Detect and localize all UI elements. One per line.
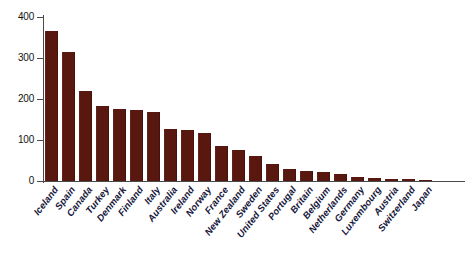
bar-slot [368, 17, 381, 181]
category-slot: Switzerland [402, 184, 415, 254]
x-axis-category-labels: IcelandSpainCanadaTurkeyDenmarkFinlandIt… [45, 184, 465, 254]
category-slot: New Zealand [232, 184, 245, 254]
bar-slot [79, 17, 92, 181]
bar-slot [249, 17, 262, 181]
bar-slot [385, 17, 398, 181]
category-slot: Japan [419, 184, 432, 254]
bar-slot [45, 17, 58, 181]
bar-slot [283, 17, 296, 181]
bar [419, 180, 432, 181]
bar-slot [96, 17, 109, 181]
bar-slot [419, 17, 432, 181]
bar-slot [181, 17, 194, 181]
bar-slot [62, 17, 75, 181]
bar-slot [215, 17, 228, 181]
bar [368, 178, 381, 181]
category-slot: Denmark [113, 184, 126, 254]
bar-slot [130, 17, 143, 181]
bar [45, 31, 58, 181]
bar [215, 146, 228, 181]
bar-slot [113, 17, 126, 181]
y-tick-label: 400 [4, 12, 34, 22]
bar [351, 177, 364, 181]
category-slot: Canada [79, 184, 92, 254]
category-slot: Portugal [283, 184, 296, 254]
category-slot: Australia [164, 184, 177, 254]
bar-slot [232, 17, 245, 181]
bar [249, 156, 262, 181]
bar-slot [317, 17, 330, 181]
category-slot: Ireland [181, 184, 194, 254]
bar [334, 174, 347, 181]
y-tick-label: 100 [4, 135, 34, 145]
bar [300, 171, 313, 181]
bar-slot [300, 17, 313, 181]
x-axis-line [43, 181, 465, 182]
y-tick-mark [37, 99, 44, 100]
bar-slot [351, 17, 364, 181]
caption-strip [0, 252, 475, 260]
bar [113, 109, 126, 181]
bar-slot [266, 17, 279, 181]
bar [62, 52, 75, 181]
category-slot: Spain [62, 184, 75, 254]
y-tick-label: 300 [4, 53, 34, 63]
y-tick-mark [37, 58, 44, 59]
bar-slot [402, 17, 415, 181]
bar [147, 112, 160, 181]
y-tick-mark [37, 140, 44, 141]
bar-slot [147, 17, 160, 181]
bar-slot [164, 17, 177, 181]
category-slot: Finland [130, 184, 143, 254]
bar [164, 129, 177, 181]
bar [266, 164, 279, 181]
bar [283, 169, 296, 181]
bar [96, 106, 109, 181]
bar [181, 130, 194, 181]
bar [79, 91, 92, 181]
bar [198, 133, 211, 181]
category-slot: Luxembourg [368, 184, 381, 254]
bar-slot [198, 17, 211, 181]
bar [130, 110, 143, 181]
bar-series [45, 17, 465, 181]
y-tick-mark [37, 181, 44, 182]
y-tick-label: 200 [4, 94, 34, 104]
category-slot: Iceland [45, 184, 58, 254]
bar [317, 172, 330, 181]
y-tick-label: 0 [4, 176, 34, 186]
bar-chart: 0100200300400 IcelandSpainCanadaTurkeyDe… [0, 0, 475, 260]
category-slot: Norway [198, 184, 211, 254]
y-tick-mark [37, 17, 44, 18]
bar [385, 179, 398, 181]
bar-slot [334, 17, 347, 181]
bar [232, 150, 245, 181]
bar [402, 179, 415, 181]
